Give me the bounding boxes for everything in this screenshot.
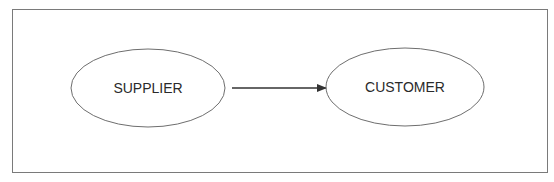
- diagram-canvas: SUPPLIER CUSTOMER: [0, 0, 554, 182]
- customer-label: CUSTOMER: [365, 79, 445, 95]
- supplier-label: SUPPLIER: [113, 80, 182, 96]
- diagram-frame: [13, 10, 548, 173]
